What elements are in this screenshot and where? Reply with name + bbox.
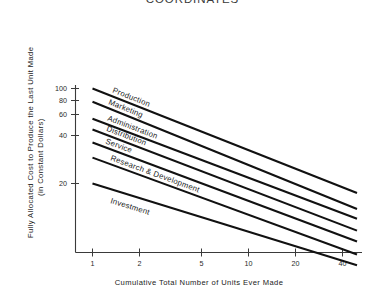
x-axis-title: Cumulative Total Number of Units Ever Ma… [115, 278, 284, 287]
x-tick-label: 20 [292, 259, 300, 268]
y-axis-title-line2: (in Constant Dollars) [36, 118, 45, 196]
y-axis-title-line1: Fully Allocated Cost to Produce the Last… [26, 47, 35, 238]
series-line [93, 129, 358, 230]
x-axis-ticks: 1 2 5 10 20 40 [91, 249, 347, 269]
x-tick-label: 5 [200, 259, 204, 268]
chart-page: COORDINATES Fully Allocated Cost to Prod… [0, 0, 385, 297]
series-line [93, 184, 358, 266]
x-tick-label: 1 [91, 259, 95, 268]
y-tick-label: 20 [59, 179, 67, 188]
y-tick-label: 60 [59, 110, 67, 119]
learning-curve-chart: Fully Allocated Cost to Produce the Last… [0, 0, 385, 297]
x-tick-label: 10 [245, 259, 253, 268]
x-tick-label: 2 [138, 259, 142, 268]
y-tick-label: 100 [55, 84, 67, 93]
y-tick-label: 40 [59, 131, 67, 140]
y-tick-label: 80 [59, 96, 67, 105]
series-label-research-development: Research & Development [109, 153, 201, 194]
